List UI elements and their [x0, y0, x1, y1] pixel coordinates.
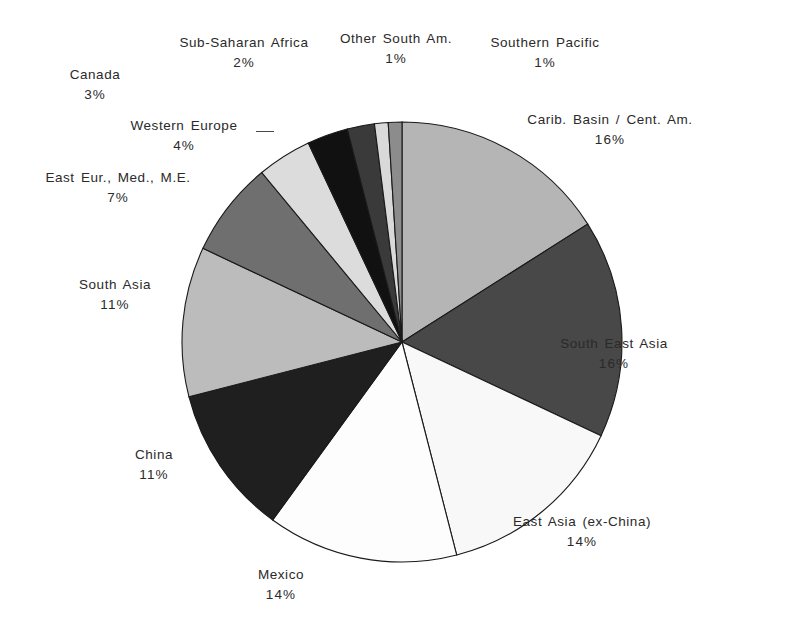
label-south-east-asia: South East Asia 16%	[531, 334, 697, 374]
label-text-east-asia-ex-china: East Asia (ex-China)	[513, 514, 651, 529]
label-southern-pacific: Southern Pacific 1%	[475, 33, 615, 73]
label-pct-china: 11%	[108, 465, 200, 485]
label-pct-southern-pacific: 1%	[475, 53, 615, 73]
label-east-eur-med-me: East Eur., Med., M.E. 7%	[20, 168, 216, 208]
label-mexico: Mexico 14%	[226, 565, 336, 605]
label-text-south-asia: South Asia	[79, 277, 151, 292]
label-pct-other-south-am: 1%	[330, 49, 462, 69]
label-pct-carib-basin: 16%	[505, 130, 715, 150]
label-text-sub-saharan-africa: Sub-Saharan Africa	[180, 35, 309, 50]
label-text-carib-basin: Carib. Basin / Cent. Am.	[527, 112, 692, 127]
label-text-southern-pacific: Southern Pacific	[490, 35, 599, 50]
label-pct-mexico: 14%	[226, 585, 336, 605]
label-east-asia-ex-china: East Asia (ex-China) 14%	[487, 512, 677, 552]
label-carib-basin: Carib. Basin / Cent. Am. 16%	[505, 110, 715, 150]
label-sub-saharan-africa: Sub-Saharan Africa 2%	[164, 33, 324, 73]
label-pct-sub-saharan-africa: 2%	[164, 53, 324, 73]
label-china: China 11%	[108, 445, 200, 485]
label-text-western-europe: Western Europe	[130, 118, 237, 133]
label-text-canada: Canada	[70, 67, 121, 82]
label-pct-east-eur-med-me: 7%	[20, 188, 216, 208]
label-text-east-eur-med-me: East Eur., Med., M.E.	[45, 170, 190, 185]
label-text-china: China	[135, 447, 173, 462]
label-other-south-am: Other South Am. 1%	[330, 29, 462, 69]
leader-line-western-europe	[256, 131, 274, 132]
label-pct-east-asia-ex-china: 14%	[487, 532, 677, 552]
label-text-mexico: Mexico	[258, 567, 304, 582]
label-pct-south-east-asia: 16%	[531, 354, 697, 374]
label-pct-south-asia: 11%	[53, 295, 177, 315]
label-western-europe: Western Europe 4%	[113, 116, 255, 156]
pie-chart-figure: Sub-Saharan Africa 2% Other South Am. 1%…	[0, 0, 785, 628]
label-canada: Canada 3%	[40, 65, 150, 105]
label-text-other-south-am: Other South Am.	[340, 31, 452, 46]
label-pct-western-europe: 4%	[113, 136, 255, 156]
label-south-asia: South Asia 11%	[53, 275, 177, 315]
label-text-south-east-asia: South East Asia	[560, 336, 668, 351]
label-pct-canada: 3%	[40, 85, 150, 105]
